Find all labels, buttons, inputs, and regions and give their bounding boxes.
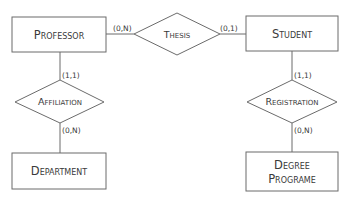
er-diagram: Professor Thesis Student Affiliation Reg… xyxy=(0,0,351,198)
relationship-thesis: Thesis xyxy=(134,13,220,55)
entity-student: Student xyxy=(246,16,338,51)
cardinality-degree-registration: (0,N) xyxy=(294,126,313,135)
relationship-affiliation: Affiliation xyxy=(15,80,104,123)
cardinality-student-registration: (1,1) xyxy=(294,71,312,80)
entity-degree-programe: Degree Programe xyxy=(246,152,338,191)
relationship-label: Affiliation xyxy=(38,96,82,107)
entity-department: Department xyxy=(12,153,106,189)
cardinality-professor-affiliation: (1,1) xyxy=(62,71,80,80)
relationship-label: Registration xyxy=(265,96,318,107)
entity-label: Professor xyxy=(34,28,85,42)
cardinality-department-affiliation: (0,N) xyxy=(62,126,81,135)
cardinality-professor-thesis: (0,N) xyxy=(113,24,132,33)
relationship-label: Thesis xyxy=(163,29,191,40)
entity-label: Student xyxy=(272,27,312,41)
entity-label-line2: Programe xyxy=(268,172,316,186)
entity-professor: Professor xyxy=(12,17,106,52)
cardinality-student-thesis: (0,1) xyxy=(220,24,238,33)
entity-label: Department xyxy=(31,164,87,178)
relationship-registration: Registration xyxy=(247,80,337,123)
entity-label-line1: Degree xyxy=(274,158,310,172)
